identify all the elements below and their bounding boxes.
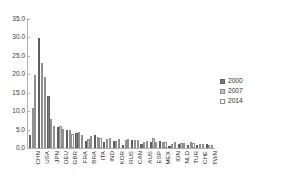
bar: [202, 144, 204, 148]
legend-swatch-icon: [220, 79, 225, 84]
bar-group: [28, 19, 37, 148]
x-axis-tick-label: AUS: [147, 151, 153, 164]
y-axis-tick-label: 25.0: [0, 53, 25, 60]
x-axis-tick-label: JPN: [54, 151, 60, 163]
bar: [127, 139, 129, 148]
y-axis-tick-label: 30.0: [0, 34, 25, 41]
bar: [62, 129, 64, 148]
bar-group: [75, 19, 84, 148]
bar-chart: 0.05.010.015.020.025.030.035.0 CHNUSAJPN…: [0, 0, 304, 189]
bar-group: [121, 19, 130, 148]
bar: [155, 142, 157, 148]
x-axis-tick-label: KOR: [119, 151, 125, 164]
x-axis-tick-label: NLD: [184, 151, 190, 163]
legend-item-2014: 2014: [220, 98, 243, 105]
bar: [211, 145, 213, 148]
legend-swatch-icon: [220, 99, 225, 104]
bar: [71, 134, 73, 148]
bar-group: [195, 19, 204, 148]
bar-group: [205, 19, 214, 148]
y-axis-tick-label: 15.0: [0, 89, 25, 96]
x-axis-tick-label: IDN: [175, 151, 181, 162]
bar: [44, 77, 46, 149]
y-axis-tick-label: 20.0: [0, 71, 25, 78]
bar-group: [93, 19, 102, 148]
x-axis-tick-label: RUS: [128, 151, 134, 164]
legend-item-2007: 2007: [220, 88, 243, 95]
bar-group: [140, 19, 149, 148]
bar-group: [102, 19, 111, 148]
x-axis-tick-label: USA: [44, 151, 50, 164]
bar: [137, 140, 139, 148]
bar-group: [177, 19, 186, 148]
bar-group: [168, 19, 177, 148]
bar-group: [65, 19, 74, 148]
bar-group: [130, 19, 139, 148]
bar: [99, 138, 101, 148]
x-axis-tick-label: CHE: [202, 151, 208, 164]
bar-group: [37, 19, 46, 148]
legend-label: 2000: [228, 78, 243, 85]
bar: [146, 141, 148, 148]
bar-group: [149, 19, 158, 148]
bar-group: [186, 19, 195, 148]
bar-group: [56, 19, 65, 148]
bar: [53, 126, 55, 148]
bar: [90, 136, 92, 148]
x-axis-line: [27, 148, 215, 149]
x-axis-tick-label: TWN: [212, 151, 218, 165]
x-axis-tick-label: CAN: [137, 151, 143, 164]
bar: [81, 135, 83, 148]
x-axis-tick-label: ITA: [100, 151, 106, 160]
bar: [192, 143, 194, 148]
x-axis-tick-label: GBR: [72, 151, 78, 164]
bar: [164, 142, 166, 148]
bar-group: [112, 19, 121, 148]
x-axis-tick-label: ESP: [156, 151, 162, 163]
x-axis-tick-label: MEX: [165, 151, 171, 164]
legend-label: 2007: [228, 88, 243, 95]
bar: [174, 142, 176, 148]
x-axis-tick-label: DEU: [63, 151, 69, 164]
bar: [118, 139, 120, 148]
legend-swatch-icon: [220, 89, 225, 94]
x-axis-tick-label: FRA: [82, 151, 88, 163]
chart-legend: 2000 2007 2014: [220, 78, 243, 108]
y-axis-tick: [27, 148, 30, 149]
bar-group: [47, 19, 56, 148]
bar-group: [158, 19, 167, 148]
y-axis-tick-label: 0.0: [0, 145, 25, 152]
plot-area: [28, 19, 214, 148]
bar: [109, 138, 111, 148]
bar: [34, 75, 36, 148]
legend-item-2000: 2000: [220, 78, 243, 85]
y-axis-tick-label: 35.0: [0, 16, 25, 23]
x-axis-tick-label: BRA: [91, 151, 97, 164]
legend-label: 2014: [228, 98, 243, 105]
x-axis-tick-label: TUR: [193, 151, 199, 164]
bar-group: [84, 19, 93, 148]
y-axis-tick-label: 5.0: [0, 126, 25, 133]
x-axis-tick-label: CHN: [35, 151, 41, 164]
y-axis-tick-label: 10.0: [0, 108, 25, 115]
x-axis-tick-label: IND: [109, 151, 115, 162]
bar: [183, 143, 185, 148]
